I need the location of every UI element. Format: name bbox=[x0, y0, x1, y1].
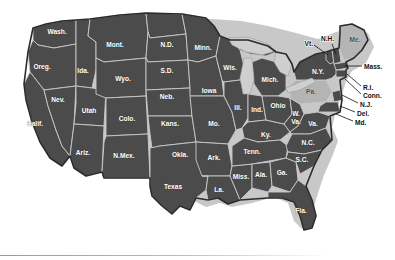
leader-del bbox=[340, 106, 355, 112]
label-sd: S.D. bbox=[161, 67, 174, 74]
label-mont: Mont. bbox=[106, 41, 124, 48]
label-mich: Mich. bbox=[262, 76, 279, 83]
label-tenn: Tenn. bbox=[243, 148, 260, 155]
label-nev: Nev. bbox=[51, 96, 65, 103]
label-conn: Conn. bbox=[363, 92, 382, 99]
label-md: Md. bbox=[355, 119, 367, 126]
label-ky: Ky. bbox=[261, 131, 271, 139]
leader-ri bbox=[347, 74, 361, 86]
label-fla: Fla. bbox=[295, 207, 307, 214]
label-vt: Vt. bbox=[305, 40, 314, 47]
label-mo: Mo. bbox=[208, 120, 220, 127]
label-wash: Wash. bbox=[47, 28, 66, 35]
leader-conn bbox=[345, 79, 361, 94]
state-ct[interactable] bbox=[336, 70, 346, 77]
label-nd: N.D. bbox=[160, 41, 173, 48]
label-colo: Colo. bbox=[119, 115, 136, 122]
label-me: Me. bbox=[350, 36, 361, 43]
label-nc: N.C. bbox=[301, 139, 314, 146]
label-ariz: Ariz. bbox=[76, 149, 90, 156]
label-ohio: Ohio bbox=[270, 102, 285, 109]
label-texas: Texas bbox=[164, 183, 183, 190]
label-ark: Ark. bbox=[208, 154, 221, 161]
label-wis: Wis. bbox=[223, 64, 237, 71]
label-kans: Kans. bbox=[161, 120, 179, 127]
label-la: La. bbox=[214, 186, 224, 193]
state-neb[interactable] bbox=[146, 58, 190, 90]
label-ri: R.I. bbox=[363, 84, 373, 91]
label-ind: Ind. bbox=[251, 106, 263, 113]
label-miss: Miss. bbox=[233, 173, 250, 180]
label-ill: Ill. bbox=[234, 104, 241, 111]
us-map: Wash. Oreg. Calif. Nev. Ida. Utah Ariz. … bbox=[0, 0, 395, 260]
label-ga: Ga. bbox=[277, 169, 288, 176]
state-mont[interactable] bbox=[88, 13, 148, 62]
label-nmex: N.Mex. bbox=[113, 152, 134, 159]
label-utah: Utah bbox=[82, 107, 97, 114]
label-mass: Mass. bbox=[364, 63, 382, 70]
label-calif: Calif. bbox=[27, 120, 43, 127]
us-map-svg: Wash. Oreg. Calif. Nev. Ida. Utah Ariz. … bbox=[0, 0, 395, 260]
label-nh: N.H. bbox=[321, 35, 334, 42]
label-sc: S.C. bbox=[296, 156, 309, 163]
label-nj: N.J. bbox=[360, 101, 372, 108]
label-va: Va. bbox=[308, 120, 318, 127]
label-wva-1: W. bbox=[292, 110, 300, 117]
label-wva-2: Va. bbox=[291, 118, 301, 125]
leader-nj bbox=[342, 95, 358, 103]
bottom-rule bbox=[0, 255, 330, 256]
leader-md bbox=[336, 114, 353, 121]
label-ny: N.Y. bbox=[312, 68, 324, 75]
label-wyo: Wyo. bbox=[115, 75, 131, 83]
label-neb: Neb. bbox=[160, 93, 174, 100]
label-pa: Pa. bbox=[306, 88, 316, 95]
label-oreg: Oreg. bbox=[33, 63, 50, 71]
label-minn: Minn. bbox=[194, 44, 211, 51]
label-okla: Okla. bbox=[172, 151, 188, 158]
label-del: Del. bbox=[357, 110, 369, 117]
label-ala: Ala. bbox=[255, 171, 267, 178]
label-iowa: Iowa bbox=[202, 87, 217, 94]
label-ida: Ida. bbox=[77, 67, 89, 74]
